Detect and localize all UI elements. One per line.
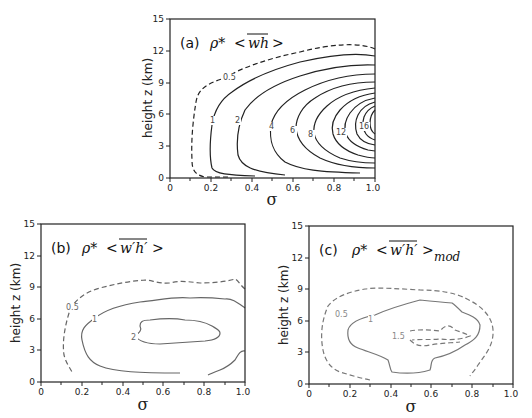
panel-c-title: (c) ρ* < w′h′ > mod bbox=[319, 241, 461, 264]
label-8: 8 bbox=[308, 130, 313, 139]
panel-a: 0.5 1 2 4 6 8 12 16 bbox=[141, 14, 380, 209]
svg-text:0.2: 0.2 bbox=[343, 389, 357, 399]
svg-text:w′h′: w′h′ bbox=[120, 240, 148, 256]
panel-b: 0.5 1 2 0 3 6 9 12 15 0 0.2 bbox=[9, 219, 250, 414]
svg-text:ρ*: ρ* bbox=[81, 240, 97, 256]
label-2: 2 bbox=[235, 116, 240, 125]
panel-a-contour-labels: 0.5 1 2 4 6 8 12 16 bbox=[210, 73, 370, 139]
label-16: 16 bbox=[359, 122, 369, 131]
svg-text:3: 3 bbox=[158, 141, 164, 151]
panel-a-title: (a) ρ* < wh > bbox=[180, 34, 284, 51]
label-1: 1 bbox=[210, 116, 215, 125]
svg-text:<: < bbox=[376, 242, 388, 258]
panel-c-contours bbox=[322, 288, 493, 380]
contour-1 bbox=[82, 297, 245, 373]
panel-c: 0.5 1 1.5 0 3 6 9 12 15 0 0. bbox=[277, 221, 518, 416]
svg-text:0.6: 0.6 bbox=[424, 389, 439, 399]
contour-1.5 bbox=[410, 326, 470, 340]
svg-text:0: 0 bbox=[297, 379, 303, 389]
label-1.5: 1.5 bbox=[392, 332, 405, 341]
figure: 0.5 1 2 4 6 8 12 16 bbox=[0, 0, 532, 418]
svg-text:<: < bbox=[234, 35, 246, 51]
contour-18 bbox=[370, 110, 375, 134]
svg-text:ρ*: ρ* bbox=[209, 35, 225, 51]
svg-text:15: 15 bbox=[153, 14, 164, 24]
contour-1.5b bbox=[410, 340, 460, 346]
contour-2 bbox=[135, 319, 220, 345]
svg-text:>: > bbox=[272, 35, 284, 51]
svg-text:0.6: 0.6 bbox=[286, 183, 301, 193]
contour-1 bbox=[348, 300, 480, 373]
svg-text:(a): (a) bbox=[180, 35, 200, 51]
svg-text:0: 0 bbox=[158, 173, 164, 183]
panel-b-ylabel: height z (km) bbox=[9, 263, 23, 343]
panel-b-title: (b) ρ* < w′h′ > bbox=[51, 239, 164, 256]
svg-text:0.2: 0.2 bbox=[204, 183, 218, 193]
panel-b-contours bbox=[63, 279, 245, 375]
panel-b-ytick-labels: 0 3 6 9 12 15 bbox=[24, 219, 36, 387]
svg-text:mod: mod bbox=[434, 250, 461, 264]
svg-text:w′h′: w′h′ bbox=[390, 242, 418, 258]
svg-text:0: 0 bbox=[167, 183, 173, 193]
svg-text:1.0: 1.0 bbox=[366, 183, 381, 193]
panel-b-xlabel: σ bbox=[138, 395, 149, 414]
svg-text:0.8: 0.8 bbox=[197, 387, 212, 397]
svg-text:0: 0 bbox=[306, 389, 312, 399]
svg-text:1.0: 1.0 bbox=[236, 387, 251, 397]
panel-c-ylabel: height z (km) bbox=[277, 265, 291, 345]
svg-text:12: 12 bbox=[292, 253, 303, 263]
svg-text:6: 6 bbox=[297, 316, 303, 326]
label-0.5: 0.5 bbox=[66, 303, 79, 312]
label-0.5: 0.5 bbox=[335, 310, 348, 319]
svg-text:wh: wh bbox=[248, 35, 269, 51]
panel-c-contour-labels: 0.5 1 1.5 bbox=[335, 310, 406, 341]
svg-text:<: < bbox=[106, 240, 118, 256]
svg-text:0: 0 bbox=[29, 377, 35, 387]
svg-text:12: 12 bbox=[24, 251, 35, 261]
label-1: 1 bbox=[368, 315, 373, 324]
svg-text:ρ*: ρ* bbox=[351, 242, 367, 258]
label-2: 2 bbox=[131, 333, 136, 342]
svg-text:12: 12 bbox=[153, 46, 164, 56]
panel-a-xlabel: σ bbox=[267, 190, 278, 209]
svg-text:0.6: 0.6 bbox=[156, 387, 171, 397]
svg-text:0: 0 bbox=[38, 387, 44, 397]
svg-text:9: 9 bbox=[297, 284, 303, 294]
panel-c-ytick-labels: 0 3 6 9 12 15 bbox=[292, 221, 304, 389]
svg-text:9: 9 bbox=[158, 78, 164, 88]
svg-text:>: > bbox=[422, 242, 434, 258]
panel-a-contours bbox=[192, 45, 375, 177]
svg-text:6: 6 bbox=[158, 109, 164, 119]
svg-text:1.0: 1.0 bbox=[504, 389, 519, 399]
panel-c-xlabel: σ bbox=[406, 397, 417, 416]
label-4: 4 bbox=[269, 122, 274, 131]
panel-a-ylabel: height z (km) bbox=[141, 58, 155, 138]
panel-b-contour-labels: 0.5 1 2 bbox=[66, 303, 138, 342]
contour-0.5 bbox=[63, 279, 245, 372]
svg-text:(b): (b) bbox=[51, 240, 71, 256]
svg-text:3: 3 bbox=[297, 347, 303, 357]
label-12: 12 bbox=[336, 128, 346, 137]
svg-text:0.8: 0.8 bbox=[465, 389, 480, 399]
svg-text:0.2: 0.2 bbox=[75, 387, 89, 397]
contour-2 bbox=[237, 65, 375, 175]
label-1: 1 bbox=[92, 315, 97, 324]
svg-text:0.8: 0.8 bbox=[327, 183, 342, 193]
label-0.5: 0.5 bbox=[223, 73, 236, 82]
svg-text:6: 6 bbox=[29, 314, 35, 324]
svg-text:0.4: 0.4 bbox=[245, 183, 260, 193]
svg-text:>: > bbox=[152, 240, 164, 256]
contour-1b bbox=[208, 351, 245, 375]
svg-text:(c): (c) bbox=[319, 242, 338, 258]
svg-text:15: 15 bbox=[24, 219, 35, 229]
svg-text:15: 15 bbox=[292, 221, 303, 231]
svg-text:9: 9 bbox=[29, 282, 35, 292]
svg-text:3: 3 bbox=[29, 345, 35, 355]
label-6: 6 bbox=[290, 126, 295, 135]
svg-text:0.4: 0.4 bbox=[116, 387, 131, 397]
contour-0.5 bbox=[192, 45, 375, 177]
svg-text:0.4: 0.4 bbox=[384, 389, 399, 399]
